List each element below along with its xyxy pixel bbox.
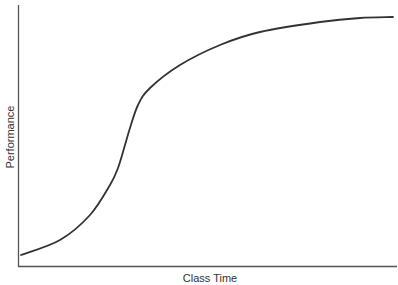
x-axis-label: Class Time: [150, 271, 270, 285]
performance-curve: [21, 17, 393, 255]
y-axis-label: Performance: [3, 97, 17, 177]
